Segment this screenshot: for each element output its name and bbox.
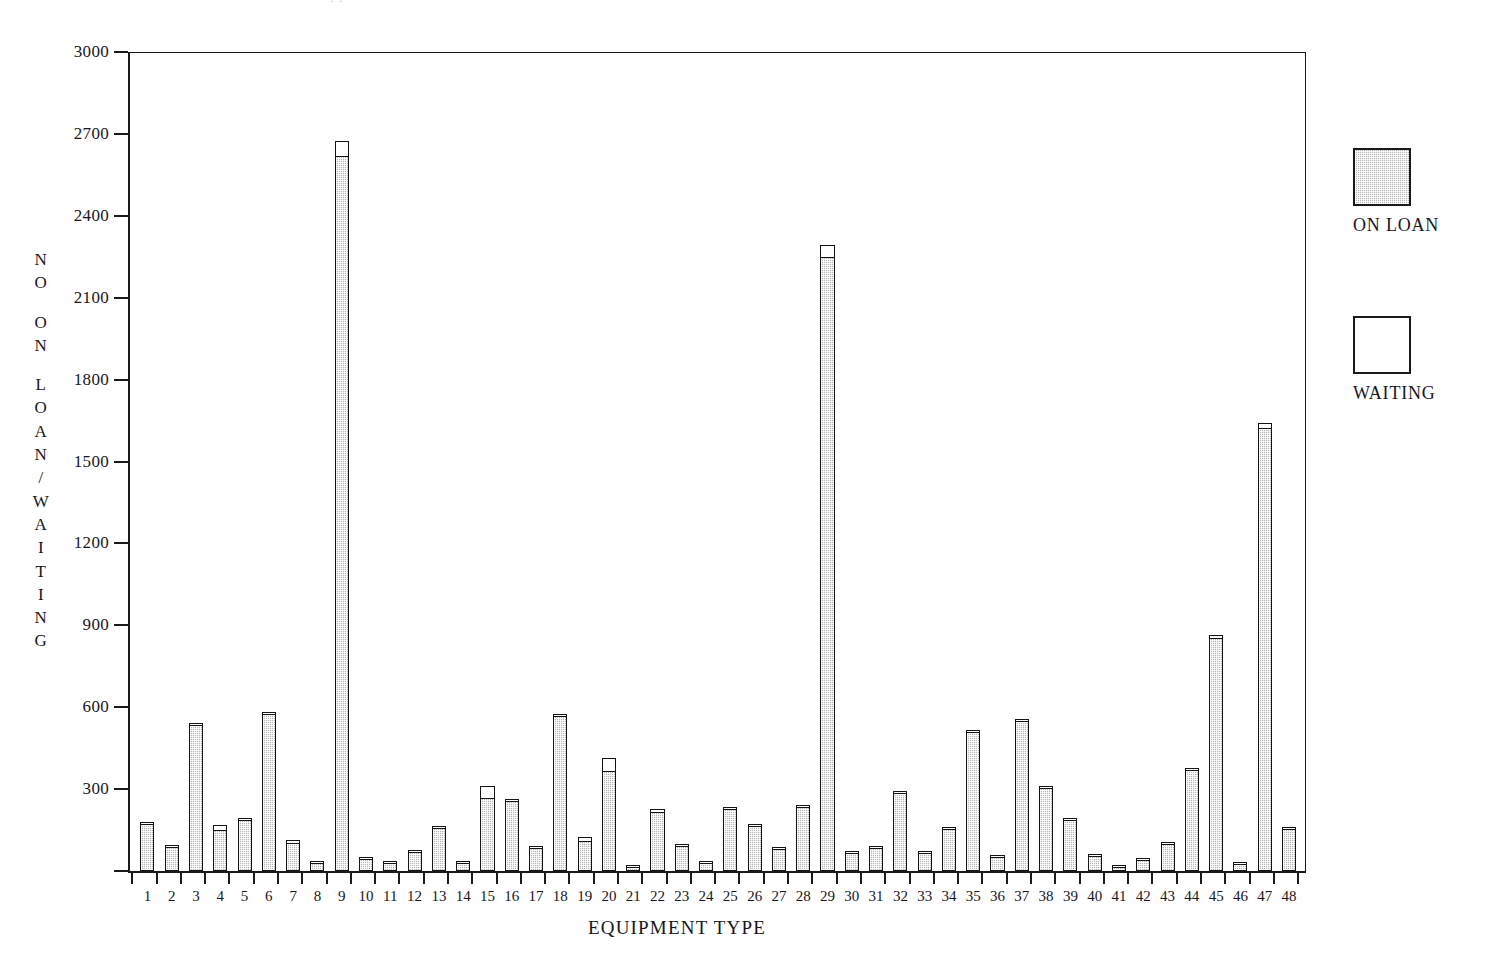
bar-segment-waiting[interactable] (1258, 423, 1272, 428)
bar-segment-waiting[interactable] (1209, 635, 1223, 639)
bar-group[interactable] (1209, 634, 1223, 872)
bar-group[interactable] (1233, 862, 1247, 871)
bar-segment-waiting[interactable] (990, 855, 1004, 858)
bar-segment-on-loan[interactable] (942, 829, 956, 871)
bar-group[interactable] (553, 713, 567, 871)
bar-segment-waiting[interactable] (942, 827, 956, 830)
bar-group[interactable] (1088, 855, 1102, 871)
bar-segment-waiting[interactable] (1282, 827, 1296, 830)
bar-segment-on-loan[interactable] (335, 156, 349, 871)
bar-segment-waiting[interactable] (553, 714, 567, 717)
bar-segment-on-loan[interactable] (1209, 638, 1223, 871)
bar-group[interactable] (189, 723, 203, 871)
bar-segment-waiting[interactable] (1112, 865, 1126, 868)
bar-segment-waiting[interactable] (748, 824, 762, 827)
bar-segment-on-loan[interactable] (286, 842, 300, 871)
bar-segment-on-loan[interactable] (650, 812, 664, 872)
bar-segment-on-loan[interactable] (1185, 769, 1199, 871)
bar-group[interactable] (1282, 827, 1296, 871)
bar-group[interactable] (1063, 818, 1077, 871)
bar-group[interactable] (213, 823, 227, 871)
bar-segment-on-loan[interactable] (432, 828, 446, 871)
bar-segment-waiting[interactable] (1185, 768, 1199, 771)
bar-segment-waiting[interactable] (262, 712, 276, 715)
bar-group[interactable] (893, 791, 907, 871)
bar-segment-on-loan[interactable] (1161, 844, 1175, 871)
bar-segment-waiting[interactable] (699, 861, 713, 864)
bar-group[interactable] (310, 862, 324, 871)
bar-segment-waiting[interactable] (456, 861, 470, 864)
bar-segment-on-loan[interactable] (1088, 856, 1102, 871)
bar-segment-on-loan[interactable] (893, 792, 907, 871)
bar-segment-on-loan[interactable] (990, 857, 1004, 871)
bar-segment-on-loan[interactable] (772, 849, 786, 871)
bar-segment-on-loan[interactable] (553, 716, 567, 871)
bar-segment-waiting[interactable] (140, 822, 154, 825)
bar-group[interactable] (456, 861, 470, 871)
bar-group[interactable] (918, 852, 932, 871)
bar-segment-waiting[interactable] (529, 846, 543, 849)
bar-group[interactable] (165, 844, 179, 871)
bar-segment-on-loan[interactable] (675, 846, 689, 871)
bar-segment-waiting[interactable] (286, 840, 300, 844)
bar-segment-waiting[interactable] (408, 850, 422, 853)
bar-segment-on-loan[interactable] (238, 820, 252, 871)
bar-group[interactable] (262, 711, 276, 871)
bar-segment-on-loan[interactable] (1136, 860, 1150, 871)
bar-segment-waiting[interactable] (238, 818, 252, 821)
bar-group[interactable] (1258, 422, 1272, 871)
bar-group[interactable] (1136, 859, 1150, 871)
bar-group[interactable] (238, 818, 252, 871)
bar-segment-waiting[interactable] (796, 805, 810, 808)
bar-segment-on-loan[interactable] (213, 830, 227, 871)
bar-group[interactable] (432, 827, 446, 871)
bar-segment-waiting[interactable] (1063, 818, 1077, 821)
bar-segment-on-loan[interactable] (1258, 427, 1272, 871)
bar-segment-waiting[interactable] (480, 786, 494, 799)
bar-segment-waiting[interactable] (1136, 858, 1150, 861)
bar-group[interactable] (796, 805, 810, 871)
bar-segment-waiting[interactable] (432, 826, 446, 829)
bar-segment-on-loan[interactable] (820, 257, 834, 871)
bar-group[interactable] (286, 838, 300, 871)
bar-segment-on-loan[interactable] (1282, 829, 1296, 871)
bar-segment-waiting[interactable] (602, 758, 616, 772)
bar-group[interactable] (675, 845, 689, 871)
bar-segment-on-loan[interactable] (140, 823, 154, 871)
bar-group[interactable] (359, 858, 373, 871)
bar-segment-waiting[interactable] (213, 825, 227, 832)
bar-segment-on-loan[interactable] (723, 809, 737, 871)
bar-segment-waiting[interactable] (189, 723, 203, 726)
bar-segment-on-loan[interactable] (1015, 720, 1029, 871)
bar-group[interactable] (1039, 786, 1053, 871)
bar-group[interactable] (699, 861, 713, 871)
bar-segment-waiting[interactable] (359, 857, 373, 860)
bar-group[interactable] (408, 850, 422, 871)
bar-group[interactable] (820, 243, 834, 871)
bar-segment-on-loan[interactable] (796, 807, 810, 871)
bar-group[interactable] (1112, 866, 1126, 871)
bar-segment-waiting[interactable] (723, 807, 737, 810)
bar-segment-waiting[interactable] (675, 844, 689, 847)
bar-segment-waiting[interactable] (310, 861, 324, 864)
bar-segment-waiting[interactable] (578, 837, 592, 842)
bar-group[interactable] (748, 824, 762, 871)
bar-group[interactable] (602, 756, 616, 871)
bar-segment-waiting[interactable] (1161, 842, 1175, 845)
bar-segment-waiting[interactable] (505, 799, 519, 802)
bar-segment-waiting[interactable] (1015, 719, 1029, 722)
bar-segment-waiting[interactable] (869, 846, 883, 849)
bar-segment-on-loan[interactable] (262, 713, 276, 871)
bar-group[interactable] (1015, 719, 1029, 871)
bar-segment-on-loan[interactable] (602, 771, 616, 871)
bar-group[interactable] (383, 861, 397, 871)
bar-segment-waiting[interactable] (820, 245, 834, 259)
bar-segment-waiting[interactable] (893, 791, 907, 794)
bar-group[interactable] (505, 799, 519, 871)
bar-group[interactable] (772, 848, 786, 871)
bar-segment-waiting[interactable] (335, 141, 349, 157)
bar-segment-on-loan[interactable] (359, 859, 373, 871)
bar-group[interactable] (1161, 843, 1175, 871)
bar-segment-on-loan[interactable] (1039, 788, 1053, 871)
bar-segment-waiting[interactable] (1039, 786, 1053, 789)
